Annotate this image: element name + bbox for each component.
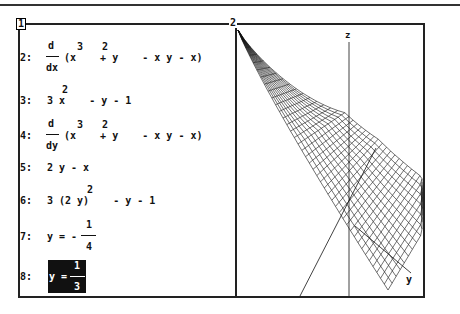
y-axis-label: y [406, 274, 412, 285]
z-axis-label: z [345, 30, 350, 41]
mesh-line [238, 30, 421, 236]
mesh-line [238, 30, 422, 202]
surface-mesh [238, 30, 422, 290]
surface-plot [0, 0, 460, 314]
y-axis-line [355, 226, 411, 273]
x-axis-line [300, 148, 376, 296]
mesh-line [238, 30, 422, 229]
